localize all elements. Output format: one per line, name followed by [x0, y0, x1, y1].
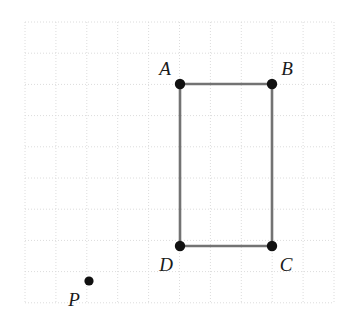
vertex-label-p: P	[67, 289, 80, 310]
geometry-figure: ABCDP	[0, 0, 344, 320]
point-marker-a	[175, 79, 185, 89]
point-marker-c	[267, 241, 277, 251]
point-marker-b	[267, 79, 277, 89]
figure-canvas: ABCDP	[0, 0, 344, 320]
vertex-label-a: A	[157, 58, 171, 79]
point-marker-d	[175, 241, 185, 251]
vertex-label-c: C	[280, 254, 293, 275]
point-marker-p	[84, 276, 93, 285]
vertex-label-d: D	[158, 254, 173, 275]
vertex-label-b: B	[281, 58, 293, 79]
